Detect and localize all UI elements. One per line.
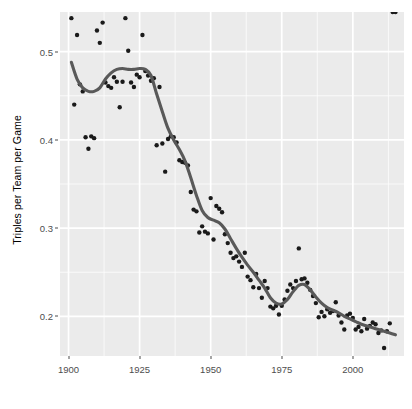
y-tick-mark <box>55 228 58 229</box>
x-tick-label: 1975 <box>271 364 292 375</box>
y-tick-mark <box>55 139 58 140</box>
x-tick-mark <box>352 356 353 359</box>
y-axis-tick-labels: 0.20.30.40.5 <box>22 0 60 409</box>
chart-root: Triples per Team per Game 0.20.30.40.5 1… <box>0 0 412 409</box>
y-tick-label: 0.4 <box>19 134 53 145</box>
scatter-points <box>69 12 398 350</box>
smooth-trend-line <box>71 62 395 335</box>
x-tick-mark <box>68 356 69 359</box>
x-tick-label: 1950 <box>200 364 221 375</box>
plot-panel <box>60 12 404 356</box>
y-tick-mark <box>55 51 58 52</box>
x-tick-mark <box>139 356 140 359</box>
y-tick-label: 0.2 <box>19 311 53 322</box>
x-tick-label: 1925 <box>129 364 150 375</box>
x-tick-label: 1900 <box>58 364 79 375</box>
x-axis-tick-labels: 19001925195019752000 <box>0 356 412 396</box>
x-tick-mark <box>281 356 282 359</box>
plot-canvas <box>60 12 404 356</box>
y-tick-mark <box>55 316 58 317</box>
y-tick-label: 0.5 <box>19 46 53 57</box>
y-tick-label: 0.3 <box>19 223 53 234</box>
x-tick-label: 2000 <box>342 364 363 375</box>
x-tick-mark <box>210 356 211 359</box>
